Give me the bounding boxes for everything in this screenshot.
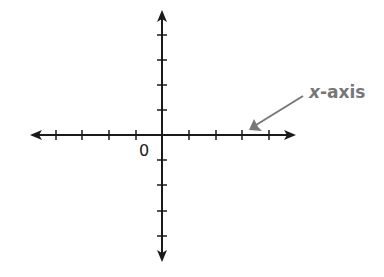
annotation-arrowhead-icon <box>249 119 262 131</box>
x-axis-label-suffix: -axis <box>320 82 365 102</box>
x-axis-label: x-axis <box>309 82 365 102</box>
origin-label: 0 <box>139 141 149 160</box>
coordinate-plane <box>0 0 384 277</box>
annotation-arrow <box>249 96 303 131</box>
x-axis-label-variable: x <box>309 82 320 102</box>
